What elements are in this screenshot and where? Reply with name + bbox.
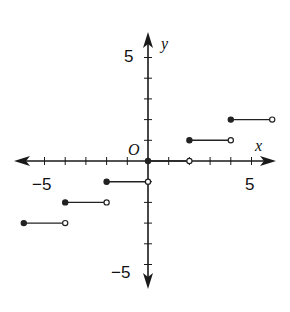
x-tick-label-5: 5 bbox=[245, 175, 254, 194]
closed-dot bbox=[63, 200, 68, 205]
closed-dot bbox=[21, 221, 26, 226]
y-tick-label-5: 5 bbox=[124, 47, 133, 66]
closed-dot bbox=[228, 117, 233, 122]
closed-dot bbox=[187, 138, 192, 143]
step-segment bbox=[187, 138, 234, 143]
closed-dot bbox=[145, 158, 150, 163]
origin-label: O bbox=[128, 141, 140, 158]
y-tick-label-neg5: −5 bbox=[111, 263, 130, 282]
step-segment bbox=[21, 221, 68, 226]
x-tick-label-neg5: −5 bbox=[32, 175, 51, 194]
step-segment bbox=[104, 179, 151, 184]
x-axis-label: x bbox=[254, 137, 262, 154]
open-dot bbox=[104, 200, 109, 205]
step-function-chart: x y O −5 5 5 −5 bbox=[0, 0, 290, 312]
y-axis-label: y bbox=[159, 35, 169, 53]
open-dot bbox=[63, 221, 68, 226]
open-dot bbox=[187, 158, 192, 163]
closed-dot bbox=[104, 179, 109, 184]
step-segment bbox=[228, 117, 275, 122]
open-dot bbox=[145, 179, 150, 184]
open-dot bbox=[270, 117, 275, 122]
open-dot bbox=[228, 138, 233, 143]
step-segment bbox=[63, 200, 110, 205]
